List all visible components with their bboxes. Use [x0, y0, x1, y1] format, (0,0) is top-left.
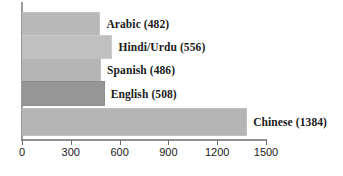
bar-row: English (508) — [22, 81, 266, 106]
x-tick-label: 1500 — [254, 146, 278, 158]
x-tick-label: 300 — [62, 146, 80, 158]
bar-english — [22, 81, 105, 106]
x-tick-label: 900 — [159, 146, 177, 158]
x-tick-mark — [71, 140, 72, 145]
x-tick-mark — [120, 140, 121, 145]
bar-label: Hindi/Urdu (556) — [118, 41, 205, 53]
bar-row: Spanish (486) — [22, 58, 266, 82]
plot-area: Arabic (482)Hindi/Urdu (556)Spanish (486… — [22, 2, 266, 140]
x-tick-mark — [168, 140, 169, 145]
x-tick-mark — [217, 140, 218, 145]
bar-spanish — [22, 58, 101, 82]
bar-hindi-urdu — [22, 35, 112, 59]
bar-row: Chinese (1384) — [22, 108, 266, 136]
x-tick-label: 0 — [19, 146, 25, 158]
bar-label: English (508) — [111, 88, 177, 100]
bar-arabic — [22, 12, 100, 36]
bar-row: Arabic (482) — [22, 12, 266, 36]
bar-label: Chinese (1384) — [253, 116, 327, 128]
x-tick-label: 600 — [110, 146, 128, 158]
bar-label: Spanish (486) — [107, 64, 175, 76]
x-tick-label: 1200 — [205, 146, 229, 158]
bar-row: Hindi/Urdu (556) — [22, 35, 266, 59]
x-tick-mark — [22, 140, 23, 145]
bar-chart: Arabic (482)Hindi/Urdu (556)Spanish (486… — [0, 0, 343, 176]
bar-chinese — [22, 108, 247, 136]
x-tick-mark — [266, 140, 267, 145]
bar-label: Arabic (482) — [106, 18, 169, 30]
